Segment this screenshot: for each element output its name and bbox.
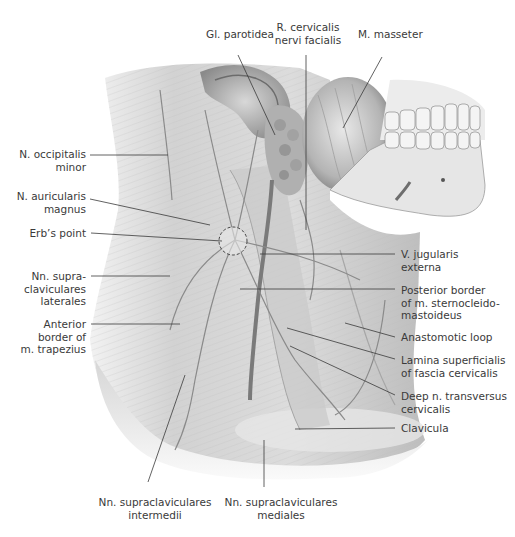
label-erbs-point: Erb’s point xyxy=(0,227,86,240)
label-posterior-border-scm: Posterior border of m. sternocleido- mas… xyxy=(401,284,515,322)
label-r-cervicalis-nervi-facialis: R. cervicalis nervi facialis xyxy=(268,21,348,46)
label-m-masseter: M. masseter xyxy=(358,28,448,41)
label-anastomotic-loop: Anastomotic loop xyxy=(401,331,515,344)
label-lamina-superficialis: Lamina superficialis of fascia cervicali… xyxy=(401,354,515,379)
label-nn-supraclaviculares-mediales: Nn. supraclaviculares mediales xyxy=(216,496,346,521)
label-n-auricularis-magnus: N. auricularis magnus xyxy=(0,190,86,215)
label-nn-supraclaviculares-intermedii: Nn. supraclaviculares intermedii xyxy=(90,496,220,521)
label-deep-n-transversus-cervicalis: Deep n. transversus cervicalis xyxy=(401,390,515,415)
label-anterior-border-trapezius: Anterior border of m. trapezius xyxy=(0,318,86,356)
label-v-jugularis-externa: V. jugularis externa xyxy=(401,248,515,273)
erbs-point-marker xyxy=(219,227,247,255)
label-clavicula: Clavicula xyxy=(401,422,515,435)
label-n-occipitalis-minor: N. occipitalis minor xyxy=(0,148,86,173)
label-nn-supraclaviculares-laterales: Nn. supra- claviculares laterales xyxy=(0,270,86,308)
